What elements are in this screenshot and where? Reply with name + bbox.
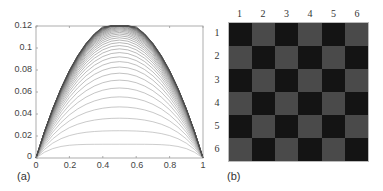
column-label: 6 xyxy=(346,8,369,19)
curve xyxy=(36,57,203,158)
y-tick-label: 0.08 xyxy=(2,64,32,74)
curve xyxy=(36,62,203,158)
checkerboard-cell xyxy=(345,92,368,115)
checkerboard-cell xyxy=(322,69,345,92)
checkerboard-cell xyxy=(229,46,252,69)
checkerboard-cell xyxy=(229,92,252,115)
checkerboard-cell xyxy=(322,115,345,138)
checkerboard-cell xyxy=(345,138,368,161)
x-tick-label: 0.6 xyxy=(125,160,149,170)
y-tick-label: 0.04 xyxy=(2,108,32,118)
checkerboard-cell xyxy=(275,92,298,115)
row-label: 5 xyxy=(211,120,223,131)
checkerboard-cell xyxy=(252,138,275,161)
column-label: 5 xyxy=(322,8,345,19)
panel-label-a: (a) xyxy=(17,170,30,182)
column-label: 3 xyxy=(275,8,298,19)
checkerboard-cell xyxy=(322,92,345,115)
checkerboard-cell xyxy=(252,69,275,92)
x-tick-label: 0.2 xyxy=(58,160,82,170)
checkerboard-cell xyxy=(229,115,252,138)
panel-b-checkerboard: 1 2 3 4 5 6 1 2 3 4 5 6 (b) xyxy=(205,0,383,191)
curve xyxy=(36,73,203,158)
row-label: 2 xyxy=(211,50,223,61)
checkerboard-cell xyxy=(298,23,321,46)
row-label: 4 xyxy=(211,97,223,108)
checkerboard-cell xyxy=(252,115,275,138)
curve-family xyxy=(36,26,203,158)
checkerboard-cell xyxy=(275,69,298,92)
y-tick-label: 0.02 xyxy=(2,130,32,140)
checkerboard-cell xyxy=(298,115,321,138)
row-label: 1 xyxy=(211,27,223,38)
checkerboard-cell xyxy=(322,138,345,161)
x-tick-label: 0.8 xyxy=(158,160,182,170)
panel-label-b: (b) xyxy=(227,170,240,182)
column-label: 4 xyxy=(299,8,322,19)
curve xyxy=(36,144,203,158)
checkerboard-cell xyxy=(252,92,275,115)
checkerboard-cell xyxy=(229,23,252,46)
checkerboard-cell xyxy=(345,115,368,138)
checkerboard-grid xyxy=(228,22,369,162)
checkerboard-cell xyxy=(322,46,345,69)
row-label: 6 xyxy=(211,143,223,154)
y-tick-label: 0.1 xyxy=(2,42,32,52)
row-label: 3 xyxy=(211,74,223,85)
checkerboard-cell xyxy=(345,69,368,92)
column-label: 2 xyxy=(252,8,275,19)
curve xyxy=(36,49,203,158)
checkerboard-cell xyxy=(322,23,345,46)
checkerboard-cell xyxy=(252,46,275,69)
checkerboard-cell xyxy=(345,23,368,46)
checkerboard-cell xyxy=(298,69,321,92)
x-tick-label: 0 xyxy=(24,160,48,170)
checkerboard-cell xyxy=(252,23,275,46)
checkerboard-cell xyxy=(229,69,252,92)
checkerboard-cell xyxy=(275,138,298,161)
x-tick-label: 0.4 xyxy=(91,160,115,170)
checkerboard-cell xyxy=(298,138,321,161)
checkerboard-cell xyxy=(275,115,298,138)
checkerboard-cell xyxy=(298,46,321,69)
checkerboard-cell xyxy=(229,138,252,161)
column-label: 1 xyxy=(228,8,251,19)
panel-a-line-plot: 0.12 0.1 0.08 0.06 0.04 0.02 0 0 0.2 0.4… xyxy=(0,0,210,191)
checkerboard-cell xyxy=(275,46,298,69)
checkerboard-cell xyxy=(275,23,298,46)
checkerboard-cell xyxy=(298,92,321,115)
y-tick-label: 0.06 xyxy=(2,86,32,96)
y-tick-label: 0.12 xyxy=(2,20,32,30)
curve xyxy=(36,46,203,158)
checkerboard-cell xyxy=(345,46,368,69)
curve xyxy=(36,118,203,158)
curve xyxy=(36,53,203,158)
